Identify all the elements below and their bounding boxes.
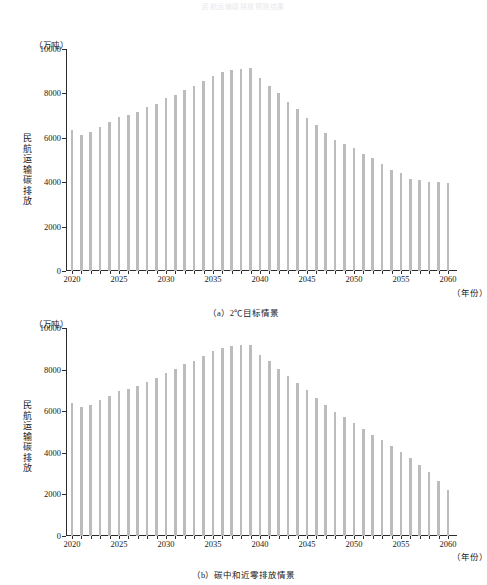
bar: [230, 70, 233, 271]
y-tick-a: [62, 49, 66, 50]
bar: [146, 107, 149, 271]
bar: [99, 127, 102, 271]
y-tick-b: [62, 328, 66, 329]
y-tick-a: [62, 93, 66, 94]
x-tick-a: [373, 271, 374, 274]
bar: [418, 465, 421, 536]
y-axis-title-char: 输: [22, 165, 33, 176]
y-axis-title-char: 运: [22, 154, 33, 165]
bar: [183, 90, 186, 271]
x-tick-b: [382, 536, 383, 539]
bar: [324, 405, 327, 536]
bar: [165, 373, 168, 536]
bar: [277, 93, 280, 271]
bar: [287, 376, 290, 536]
x-tick-label-a: 2045: [298, 275, 315, 284]
bar: [277, 369, 280, 536]
x-tick-a: [288, 271, 289, 274]
x-tick-label-b: 2060: [439, 540, 456, 549]
x-tick-label-b: 2035: [204, 540, 221, 549]
bar: [183, 364, 186, 536]
x-tick-label-a: 2060: [439, 275, 456, 284]
x-tick-a: [382, 271, 383, 274]
x-tick-label-a: 2055: [392, 275, 409, 284]
bar: [240, 69, 243, 271]
y-axis-title-char: 碳: [22, 175, 33, 186]
x-tick-b: [100, 536, 101, 539]
x-tick-label-b: 2020: [64, 540, 81, 549]
x-tick-b: [222, 536, 223, 539]
chart-panel-a: （万吨） 民航运输碳排放 020004000600080001000020202…: [0, 18, 487, 308]
y-tick-label-b: 0: [57, 532, 61, 541]
bar: [230, 346, 233, 536]
bar: [146, 382, 149, 536]
bar: [71, 403, 74, 536]
x-tick-b: [316, 536, 317, 539]
y-tick-b: [62, 536, 66, 537]
bar: [447, 183, 450, 271]
bar: [174, 95, 177, 271]
x-tick-b: [241, 536, 242, 539]
x-tick-a: [128, 271, 129, 274]
x-tick-a: [81, 271, 82, 274]
x-tick-label-b: 2030: [157, 540, 174, 549]
y-axis-title-char: 放: [22, 463, 33, 474]
bar: [202, 81, 205, 271]
x-tick-label-b: 2050: [345, 540, 362, 549]
bar: [127, 115, 130, 271]
x-tick-a: [185, 271, 186, 274]
bar: [193, 86, 196, 271]
bar: [89, 405, 92, 536]
x-tick-b: [185, 536, 186, 539]
bar: [240, 345, 243, 536]
bar: [99, 400, 102, 536]
x-tick-a: [222, 271, 223, 274]
x-tick-b: [269, 536, 270, 539]
bar: [371, 158, 374, 271]
bar: [324, 133, 327, 271]
x-tick-b: [138, 536, 139, 539]
plot-area-b: 0200040006000800010000202020252030203520…: [66, 328, 457, 536]
bar: [334, 140, 337, 271]
bar: [259, 78, 262, 271]
bar: [268, 361, 271, 536]
x-tick-a: [147, 271, 148, 274]
y-tick-label-b: 10000: [40, 324, 61, 333]
y-axis-title-char: 排: [22, 186, 33, 197]
x-tick-a: [429, 271, 430, 274]
bar: [447, 490, 450, 536]
x-tick-a: [420, 271, 421, 274]
bar: [306, 390, 309, 536]
x-tick-b: [91, 536, 92, 539]
x-tick-a: [335, 271, 336, 274]
bar: [343, 417, 346, 536]
x-tick-label-a: 2035: [204, 275, 221, 284]
bar: [165, 98, 168, 271]
bar: [249, 345, 252, 536]
x-tick-b: [363, 536, 364, 539]
figure-title: 民航运输碳排放预测结果: [0, 1, 487, 11]
bar: [202, 356, 205, 536]
y-tick-label-a: 8000: [44, 89, 61, 98]
y-tick-b: [62, 411, 66, 412]
x-tick-b: [232, 536, 233, 539]
bar: [381, 440, 384, 536]
bar: [118, 117, 121, 271]
x-tick-label-b: 2040: [251, 540, 268, 549]
x-tick-a: [100, 271, 101, 274]
bar: [221, 72, 224, 271]
x-tick-label-a: 2050: [345, 275, 362, 284]
x-tick-a: [279, 271, 280, 274]
caption-b: （b）碳中和近零排放情景: [0, 568, 487, 580]
x-tick-b: [410, 536, 411, 539]
y-tick-label-b: 8000: [44, 365, 61, 374]
bar: [428, 472, 431, 536]
bar: [80, 407, 83, 536]
y-tick-label-a: 2000: [44, 222, 61, 231]
bar: [174, 369, 177, 536]
x-tick-b: [279, 536, 280, 539]
bar: [221, 348, 224, 536]
x-tick-a: [316, 271, 317, 274]
x-tick-b: [81, 536, 82, 539]
bar: [409, 179, 412, 271]
